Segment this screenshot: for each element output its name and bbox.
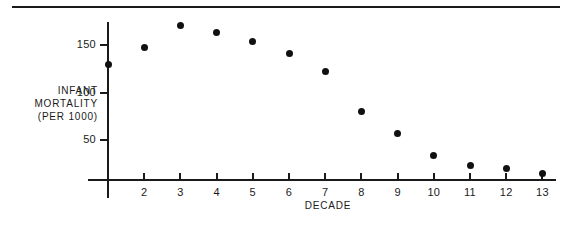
x-tick-6 [288, 173, 290, 180]
x-tick-5 [252, 173, 254, 180]
y-axis-label-line-2: MORTALITY [2, 97, 98, 110]
x-tick-label-13: 13 [529, 186, 555, 198]
data-point [177, 22, 184, 29]
x-tick-label-8: 8 [348, 186, 374, 198]
y-tick-150 [100, 44, 108, 46]
data-point [286, 50, 293, 57]
x-axis-line [88, 179, 556, 181]
y-axis-label-line-3: (PER 1000) [2, 110, 98, 123]
x-tick-10 [433, 173, 435, 180]
y-tick-label-150: 150 [56, 38, 96, 50]
data-point [322, 68, 329, 75]
y-tick-label-50: 50 [56, 133, 96, 145]
y-axis-line [107, 22, 109, 198]
data-point [358, 108, 365, 115]
x-tick-label-6: 6 [276, 186, 302, 198]
x-axis-label: DECADE [268, 200, 388, 211]
x-tick-label-11: 11 [457, 186, 483, 198]
x-tick-label-3: 3 [167, 186, 193, 198]
x-tick-2 [143, 173, 145, 180]
data-point [213, 29, 220, 36]
data-point [539, 170, 546, 177]
x-tick-label-12: 12 [493, 186, 519, 198]
data-point [105, 61, 112, 68]
data-point [141, 44, 148, 51]
x-tick-label-5: 5 [240, 186, 266, 198]
data-point [503, 165, 510, 172]
y-tick-100 [100, 92, 108, 94]
x-tick-12 [505, 173, 507, 180]
y-axis-label: INFANT MORTALITY (PER 1000) [2, 84, 98, 123]
figure-container: 15010050 2345678910111213 INFANT MORTALI… [0, 0, 568, 226]
x-tick-label-4: 4 [204, 186, 230, 198]
y-tick-50 [100, 139, 108, 141]
x-tick-label-10: 10 [421, 186, 447, 198]
data-point [249, 38, 256, 45]
x-tick-3 [179, 173, 181, 180]
x-tick-8 [360, 173, 362, 180]
x-tick-4 [216, 173, 218, 180]
x-tick-9 [397, 173, 399, 180]
x-tick-7 [324, 173, 326, 180]
x-tick-label-9: 9 [385, 186, 411, 198]
y-axis-label-line-1: INFANT [2, 84, 98, 97]
scatter-plot: 15010050 2345678910111213 INFANT MORTALI… [0, 0, 568, 226]
data-point [394, 130, 401, 137]
data-point [430, 152, 437, 159]
data-point [467, 162, 474, 169]
x-tick-11 [469, 173, 471, 180]
x-tick-label-2: 2 [131, 186, 157, 198]
x-tick-label-7: 7 [312, 186, 338, 198]
